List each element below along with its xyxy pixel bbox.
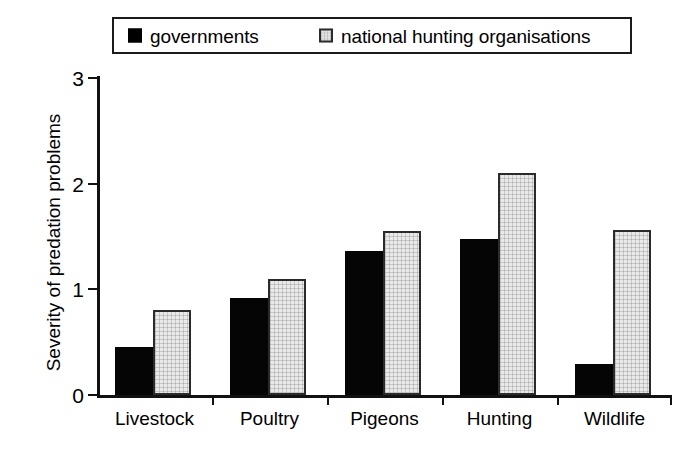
- x-category-label-wildlife: Wildlife: [535, 409, 679, 428]
- y-tick-label-1: 1: [72, 279, 84, 300]
- bar-poultry-governments: [230, 298, 268, 395]
- x-tick-4: [557, 395, 559, 405]
- legend-swatch-governments: [128, 29, 142, 43]
- y-tick-label-3: 3: [72, 68, 84, 89]
- bar-group-wildlife: Wildlife: [557, 78, 672, 395]
- bar-group-livestock: Livestock: [97, 78, 212, 395]
- bar-wildlife-governments: [575, 364, 613, 395]
- bar-wildlife-national-hunting-organisations: [613, 230, 651, 395]
- y-axis-title: Severity of predation problems: [44, 73, 63, 413]
- bar-group-poultry: Poultry: [212, 78, 327, 395]
- legend-entry-governments: governments: [128, 26, 259, 45]
- x-tick-1: [212, 395, 214, 405]
- bar-poultry-national-hunting-organisations: [268, 279, 306, 395]
- bar-pigeons-governments: [345, 251, 383, 395]
- y-tick-label-0: 0: [72, 385, 84, 406]
- bar-pigeons-national-hunting-organisations: [383, 231, 421, 395]
- y-tick-1: [88, 288, 97, 290]
- bar-chart-figure: governments national hunting organisatio…: [0, 0, 679, 453]
- bar-hunting-national-hunting-organisations: [498, 173, 536, 395]
- plot-area: 0123 LivestockPoultryPigeonsHuntingWildl…: [97, 78, 672, 395]
- y-tick-3: [88, 77, 97, 79]
- legend-label-national-hunting-organisations: national hunting organisations: [341, 26, 590, 45]
- y-tick-2: [88, 183, 97, 185]
- x-tick-3: [442, 395, 444, 405]
- bar-group-hunting: Hunting: [442, 78, 557, 395]
- bar-group-pigeons: Pigeons: [327, 78, 442, 395]
- bar-hunting-governments: [460, 239, 498, 395]
- legend-swatch-national-hunting-organisations: [319, 29, 333, 43]
- legend-label-governments: governments: [150, 26, 259, 45]
- bar-livestock-national-hunting-organisations: [153, 310, 191, 395]
- y-tick-0: [88, 394, 97, 396]
- y-tick-label-2: 2: [72, 173, 84, 194]
- chart-legend: governments national hunting organisatio…: [112, 17, 632, 54]
- x-axis-line: [97, 395, 672, 398]
- legend-entry-national-hunting-organisations: national hunting organisations: [319, 26, 590, 45]
- x-tick-end: [670, 395, 672, 405]
- bar-livestock-governments: [115, 347, 153, 395]
- x-tick-2: [327, 395, 329, 405]
